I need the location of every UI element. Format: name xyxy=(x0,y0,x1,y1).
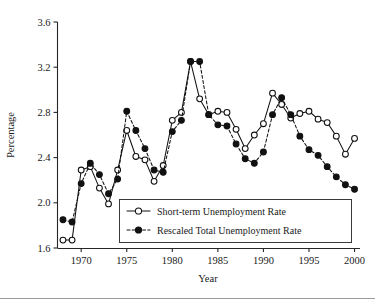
data-point-marker xyxy=(133,154,139,160)
data-point-marker xyxy=(169,129,175,135)
data-point-marker xyxy=(115,167,121,173)
data-point-marker xyxy=(60,217,66,223)
data-point-marker xyxy=(87,160,93,166)
data-point-marker xyxy=(324,164,330,170)
legend-label-rescaled-total: Rescaled Total Unemployment Rate xyxy=(157,225,302,236)
x-tick-label: 1995 xyxy=(298,255,319,266)
data-point-marker xyxy=(324,120,330,126)
data-point-marker xyxy=(124,108,130,114)
data-point-marker xyxy=(97,172,103,178)
unemployment-rate-line-chart: 1.62.02.42.83.23.6 197019751980198519901… xyxy=(0,0,375,306)
y-tick-label: 1.6 xyxy=(37,243,50,254)
data-point-marker xyxy=(270,112,276,118)
data-point-marker xyxy=(151,178,157,184)
data-point-marker xyxy=(352,186,358,192)
data-point-marker xyxy=(197,59,203,65)
data-point-marker xyxy=(78,167,84,173)
data-point-marker xyxy=(197,96,203,102)
data-point-marker xyxy=(69,237,75,243)
data-point-marker xyxy=(297,133,303,139)
data-point-marker xyxy=(206,112,212,118)
y-axis-title: Percentage xyxy=(5,112,16,158)
y-tick-label: 3.6 xyxy=(37,17,50,28)
legend-marker-open-circle xyxy=(135,208,141,214)
data-point-marker xyxy=(151,167,157,173)
data-point-marker xyxy=(106,201,112,207)
data-point-marker xyxy=(69,219,75,225)
x-tick-label: 1985 xyxy=(207,255,228,266)
figure-container: 1.62.02.42.83.23.6 197019751980198519901… xyxy=(0,0,375,306)
data-point-marker xyxy=(233,141,239,147)
data-point-marker xyxy=(142,157,148,163)
data-point-marker xyxy=(60,237,66,243)
data-point-marker xyxy=(215,108,221,114)
y-tick-label: 3.2 xyxy=(37,62,50,73)
x-tick-label: 1975 xyxy=(116,255,137,266)
x-axis: 1970197519801985199019952000 xyxy=(58,248,366,266)
legend-label-short-term: Short-term Unemployment Rate xyxy=(157,206,286,217)
data-point-marker xyxy=(333,174,339,180)
data-point-marker xyxy=(179,117,185,123)
data-point-marker xyxy=(115,176,121,182)
x-tick-group: 1970197519801985199019952000 xyxy=(71,248,365,266)
data-point-marker xyxy=(333,133,339,139)
data-point-marker xyxy=(124,128,130,134)
data-point-marker xyxy=(315,116,321,122)
data-point-marker xyxy=(270,90,276,96)
data-point-marker xyxy=(169,117,175,123)
data-point-marker xyxy=(78,181,84,187)
page-bottom-rule xyxy=(0,298,375,299)
x-tick-label: 1980 xyxy=(162,255,183,266)
legend-marker-filled-circle xyxy=(135,227,141,233)
y-tick-group: 1.62.02.42.83.23.6 xyxy=(37,17,57,254)
x-tick-label: 1990 xyxy=(253,255,274,266)
data-point-marker xyxy=(251,132,257,138)
data-point-marker xyxy=(315,152,321,158)
data-point-marker xyxy=(160,169,166,175)
data-point-marker xyxy=(188,59,194,65)
data-point-marker xyxy=(343,151,349,157)
data-point-marker xyxy=(343,182,349,188)
data-point-marker xyxy=(352,135,358,141)
data-point-marker xyxy=(306,147,312,153)
chart-legend: Short-term Unemployment Rate Rescaled To… xyxy=(120,200,352,243)
x-tick-label: 1970 xyxy=(71,255,92,266)
data-point-marker xyxy=(279,95,285,101)
data-point-marker xyxy=(242,146,248,152)
data-point-marker xyxy=(224,123,230,129)
y-tick-label: 2.8 xyxy=(37,107,50,118)
x-tick-label: 2000 xyxy=(344,255,365,266)
data-point-marker xyxy=(224,110,230,116)
data-point-marker xyxy=(215,122,221,128)
x-axis-title: Year xyxy=(198,273,218,284)
data-point-marker xyxy=(142,146,148,152)
data-point-marker xyxy=(288,112,294,118)
y-axis: 1.62.02.42.83.23.6 xyxy=(37,17,57,254)
series-path xyxy=(63,62,355,222)
data-point-marker xyxy=(306,108,312,114)
data-point-marker xyxy=(106,191,112,197)
data-point-marker xyxy=(251,160,257,166)
y-tick-label: 2.0 xyxy=(37,197,50,208)
data-point-marker xyxy=(242,156,248,162)
data-point-marker xyxy=(261,149,267,155)
data-point-marker xyxy=(233,126,239,132)
data-point-marker xyxy=(297,111,303,117)
data-point-marker xyxy=(133,128,139,134)
data-point-marker xyxy=(261,121,267,127)
data-point-marker xyxy=(97,185,103,191)
y-tick-label: 2.4 xyxy=(37,152,51,163)
